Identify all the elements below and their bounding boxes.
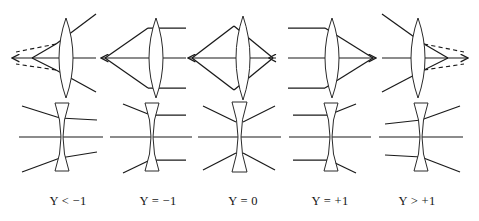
panel-4-concave-diagram	[379, 103, 463, 172]
refracted-ray-lower-4	[424, 58, 448, 70]
concave-ray-lower-in-4	[385, 155, 421, 157]
refracted-ray-lower-1	[105, 58, 148, 88]
concave-ray-upper-left-2	[203, 106, 236, 122]
diverging-lens-row	[19, 102, 463, 173]
concave-ray-lower-left-2	[203, 153, 236, 170]
refracted-ray-lower-0	[32, 58, 56, 70]
concave-ray-upper-in-1	[123, 104, 148, 114]
concave-ray-lower-in-0	[22, 158, 60, 172]
panel-3-convex-diagram	[288, 18, 376, 98]
converging-lens-row	[12, 14, 468, 100]
optics-ray-diagram-figure: Y < −1 Y = −1 Y = 0 Y = +1 Y > +1	[0, 0, 479, 221]
panel-0-convex-diagram	[12, 14, 96, 98]
cone-ray-lower-left-2	[192, 58, 234, 90]
refracted-ray-upper-4	[424, 44, 448, 58]
caption-panel-4: Y > +1	[399, 194, 436, 208]
concave-ray-lower-in-1	[123, 161, 148, 173]
panel-4-convex-diagram	[382, 14, 468, 98]
concave-ray-upper-in-4	[385, 120, 421, 124]
concave-ray-lower-right-2	[243, 153, 275, 170]
panel-3-concave-diagram	[289, 103, 371, 173]
concave-ray-upper-out-0	[60, 118, 97, 120]
panel-1-convex-diagram	[101, 18, 186, 98]
figure-canvas: Y < −1 Y = −1 Y = 0 Y = +1 Y > +1	[0, 0, 479, 221]
biconvex-lens-4	[411, 18, 425, 98]
panel-2-concave-diagram	[198, 102, 281, 172]
caption-panel-2: Y = 0	[228, 194, 258, 208]
refracted-ray-upper-1	[105, 28, 148, 58]
biconvex-lens-1	[149, 18, 163, 98]
panel-2-convex-diagram	[188, 16, 276, 100]
concave-ray-upper-in-0	[22, 106, 60, 118]
panel-1-concave-diagram	[110, 103, 192, 173]
biconvex-lens-0	[59, 18, 73, 98]
panel-0-concave-diagram	[19, 103, 103, 172]
caption-panel-3: Y = +1	[312, 194, 349, 208]
concave-ray-upper-right-2	[243, 106, 275, 122]
caption-row: Y < −1 Y = −1 Y = 0 Y = +1 Y > +1	[50, 194, 436, 208]
cone-ray-upper-left-2	[192, 26, 234, 58]
caption-panel-0: Y < −1	[50, 194, 87, 208]
refracted-ray-upper-0	[32, 44, 56, 58]
caption-panel-1: Y = −1	[140, 194, 177, 208]
